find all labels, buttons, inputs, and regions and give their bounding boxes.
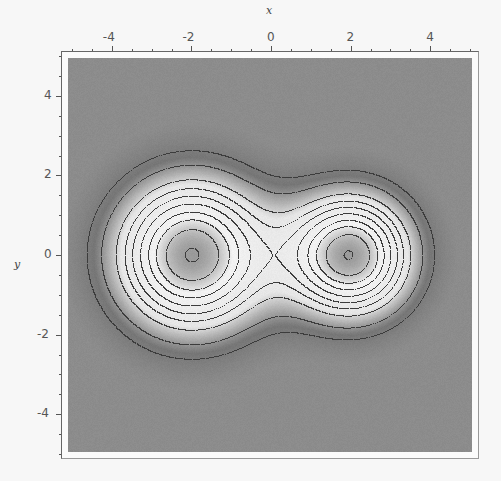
y-tick [59, 215, 61, 216]
y-tick [59, 315, 61, 316]
y-tick [59, 374, 61, 375]
x-tick [211, 49, 212, 51]
x-axis-title: x [266, 4, 272, 17]
y-tick [56, 96, 61, 97]
x-tick [112, 46, 113, 51]
y-tick [56, 414, 61, 415]
y-tick [59, 156, 61, 157]
y-tick [56, 175, 61, 176]
x-tick [92, 49, 93, 51]
contour-plot: x y -4-2024420-2-4 [0, 0, 501, 481]
x-tick [172, 49, 173, 51]
y-tick-label: -4 [37, 406, 49, 420]
y-tick [59, 195, 61, 196]
y-tick-label: 0 [44, 247, 52, 261]
x-tick [191, 46, 192, 51]
y-tick [59, 295, 61, 296]
x-tick [351, 46, 352, 51]
x-tick [251, 49, 252, 51]
y-tick [59, 434, 61, 435]
y-tick [59, 235, 61, 236]
x-tick-label: -2 [182, 30, 194, 44]
x-tick [450, 49, 451, 51]
y-tick-label: 2 [44, 167, 52, 181]
x-tick-label: 0 [267, 30, 275, 44]
density-contour-canvas [68, 58, 472, 452]
x-tick [430, 46, 431, 51]
y-tick [59, 56, 61, 57]
y-tick [59, 394, 61, 395]
y-tick [56, 255, 61, 256]
y-tick [59, 116, 61, 117]
y-tick [56, 335, 61, 336]
x-tick-label: -4 [103, 30, 115, 44]
x-tick [331, 49, 332, 51]
x-tick [72, 49, 73, 51]
x-tick [291, 49, 292, 51]
y-tick [59, 275, 61, 276]
y-tick [59, 355, 61, 356]
x-tick [152, 49, 153, 51]
x-tick [271, 46, 272, 51]
y-tick [59, 454, 61, 455]
y-tick [59, 136, 61, 137]
y-axis-title: y [14, 258, 20, 271]
x-tick [371, 49, 372, 51]
x-tick [410, 49, 411, 51]
x-tick [132, 49, 133, 51]
y-tick-label: -2 [37, 327, 49, 341]
x-tick-label: 2 [347, 30, 355, 44]
x-tick [470, 49, 471, 51]
x-tick-label: 4 [426, 30, 434, 44]
y-tick [59, 76, 61, 77]
y-tick-label: 4 [44, 88, 52, 102]
x-tick [311, 49, 312, 51]
x-tick [231, 49, 232, 51]
x-tick [390, 49, 391, 51]
